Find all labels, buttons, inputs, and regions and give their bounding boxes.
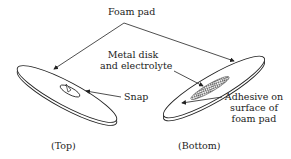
adhesive-label: Adhesive on surface of foam pad — [224, 91, 284, 124]
foam-pad-label: Foam pad — [108, 6, 155, 17]
adhesive-label-line3: foam pad — [224, 113, 284, 124]
metal-disk-label-line1: Metal disk — [100, 49, 166, 60]
metal-disk-label: Metal disk and electrolyte — [100, 49, 166, 71]
adhesive-label-line2: surface of — [224, 102, 284, 113]
adhesive-label-line1: Adhesive on — [224, 91, 284, 102]
electrode-diagram — [0, 0, 291, 159]
bottom-caption: (Bottom) — [178, 140, 220, 151]
metal-disk-label-line2: and electrolyte — [100, 60, 166, 71]
snap-label: Snap — [124, 91, 148, 102]
top-caption: (Top) — [51, 140, 76, 151]
